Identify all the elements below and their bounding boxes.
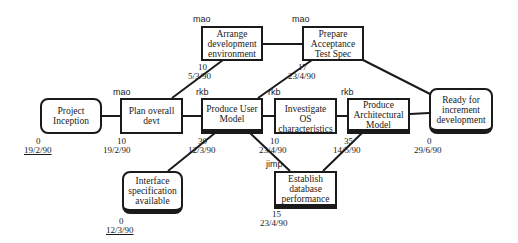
node-produce-user-model[interactable]: Produce User Model [201,98,263,134]
node-date: 23/4/90 [288,72,316,81]
node-label: Produce User Model [206,104,257,124]
node-owner: mao [113,88,131,97]
node-plan-overall-devt[interactable]: Plan overall devt [120,98,183,134]
node-label: Ready for increment development [436,95,485,125]
node-prepare-acceptance-test-spec[interactable]: Prepare Acceptance Test Spec [302,26,364,61]
node-interface-specification-available[interactable]: Interface specification available [122,171,183,214]
node-ready-for-increment-development[interactable]: Ready for increment development [429,88,493,134]
node-label: Plan overall devt [129,106,175,126]
node-date: 23/4/90 [260,219,288,228]
node-owner: mao [292,15,310,24]
activity-network-diagram: Project Inception 0 19/2/90 mao Plan ove… [0,0,518,243]
node-produce-architectural-model[interactable]: Produce Architectural Model [347,98,410,134]
node-date: 12/3/90 [106,226,134,235]
node-date: 29/6/90 [414,146,442,155]
node-project-inception[interactable]: Project Inception [40,98,102,134]
node-owner: mao [193,15,211,24]
node-owner: rkb [196,88,209,97]
node-label: Arrange development environment [207,29,256,59]
node-label: Establish database performance [282,174,330,204]
link-architectural-ready [410,113,429,114]
node-date: 19/2/90 [103,146,131,155]
node-label: Produce Architectural Model [353,100,403,130]
node-establish-database-performance[interactable]: Establish database performance [274,171,337,209]
node-label: Interface specification available [128,176,177,206]
node-owner: rkb [268,88,281,97]
node-date: 5/3/90 [188,72,211,81]
node-owner: jimp [266,160,283,169]
node-date: 14/5/90 [333,146,361,155]
node-date: 12/3/90 [188,146,216,155]
node-date: 23/4/90 [259,146,287,155]
node-label: Project Inception [53,106,89,126]
node-investigate-os-characteristics[interactable]: Investigate OS characteristics [274,98,337,134]
node-owner: rkb [341,88,354,97]
node-date: 19/2/90 [24,146,52,155]
node-label: Investigate OS characteristics [278,104,333,134]
node-label: Prepare Acceptance Test Spec [311,29,355,59]
link-acceptance-ready [363,60,432,95]
node-arrange-development-environment[interactable]: Arrange development environment [201,26,263,61]
